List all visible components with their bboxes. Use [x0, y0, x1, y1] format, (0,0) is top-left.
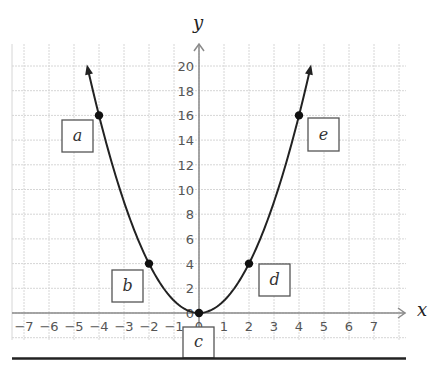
x-tick-label: 3 — [270, 319, 278, 334]
y-tick-label: 2 — [186, 281, 194, 296]
x-tick-label: −3 — [114, 319, 133, 334]
x-tick-label: −4 — [89, 319, 108, 334]
label-box-e: e — [308, 118, 339, 151]
point-a — [95, 111, 103, 119]
y-tick-labels: 02468101214161820 — [177, 59, 194, 321]
y-tick-label: 8 — [186, 207, 194, 222]
y-tick-label: 20 — [177, 59, 194, 74]
x-tick-label: −7 — [14, 319, 33, 334]
y-tick-label: 18 — [177, 84, 194, 99]
x-tick-label: 5 — [320, 319, 328, 334]
y-tick-label: 16 — [177, 108, 194, 123]
y-tick-label: 6 — [186, 232, 194, 247]
x-tick-label: 2 — [245, 319, 253, 334]
x-tick-label: 4 — [295, 319, 303, 334]
y-tick-label: 10 — [177, 183, 194, 198]
point-d — [245, 259, 253, 267]
x-tick-label: 7 — [370, 319, 378, 334]
x-tick-label: −6 — [39, 319, 58, 334]
y-tick-label: 12 — [177, 158, 194, 173]
label-c: c — [194, 332, 203, 351]
label-e: e — [319, 125, 328, 144]
label-box-a: a — [62, 120, 93, 152]
x-tick-label: −5 — [64, 319, 83, 334]
grid-lines — [12, 44, 406, 340]
label-box-d: d — [259, 264, 290, 296]
point-c — [195, 309, 203, 317]
label-b: b — [122, 276, 132, 295]
label-box-c: c — [183, 327, 214, 358]
y-tick-label: 4 — [186, 257, 194, 272]
coordinate-plane: −7−6−5−4−3−2−101234567 02468101214161820… — [0, 0, 434, 378]
point-b — [145, 259, 153, 267]
parabola-diagram: −7−6−5−4−3−2−101234567 02468101214161820… — [0, 0, 434, 378]
x-tick-label: −1 — [164, 319, 183, 334]
y-axis-label: y — [192, 12, 204, 33]
y-tick-label: 14 — [177, 133, 194, 148]
x-tick-label: 1 — [220, 319, 228, 334]
x-tick-label: −2 — [139, 319, 158, 334]
label-d: d — [269, 270, 279, 289]
axes — [12, 44, 405, 345]
point-e — [295, 111, 303, 119]
x-axis-label: x — [417, 299, 427, 320]
y-tick-label: 0 — [186, 306, 194, 321]
label-a: a — [73, 126, 83, 145]
x-tick-label: 6 — [345, 319, 353, 334]
label-box-b: b — [112, 270, 143, 302]
